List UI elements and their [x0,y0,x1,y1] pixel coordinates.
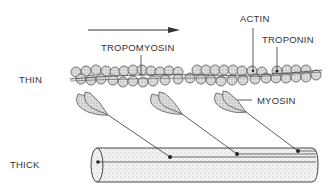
leader-lines [141,28,277,100]
label-tropomyosin: TROPOMYOSIN [101,42,174,53]
thin-filament [70,65,322,87]
label-thick: THICK [10,159,40,170]
troponin-marker [275,69,278,72]
direction-arrow [88,27,180,33]
label-actin: ACTIN [240,13,270,24]
label-troponin: TROPONIN [262,34,314,45]
thick-filament [91,148,318,182]
label-thin: THIN [19,74,42,85]
label-myosin: MYOSIN [257,95,296,106]
